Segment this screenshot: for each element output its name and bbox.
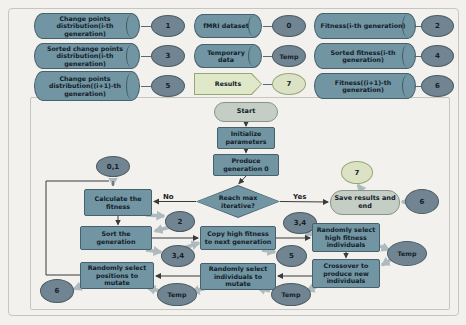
store-results: Results: [194, 73, 262, 95]
connector-line: [414, 26, 421, 27]
flow-diagram-figure: Change points distribution(i-th generati…: [0, 0, 466, 325]
tag-label: Temp: [280, 53, 299, 60]
store-change-points-i1: Change points distribution((i+1)-th gene…: [34, 71, 140, 101]
tag-ellipse-2: 2: [421, 15, 454, 37]
tag-ellipse-temp: Temp: [272, 45, 306, 67]
produce-generation-node: Produce generation 0: [213, 154, 279, 176]
store-ref-label: Temp: [398, 250, 417, 257]
store-ref-temp-left: Temp: [157, 283, 197, 306]
store-ref-5: 5: [276, 245, 307, 267]
tag-label: 5: [166, 82, 171, 90]
store-label: Temporary data: [199, 49, 253, 63]
connector-line: [141, 56, 151, 57]
store-label: Fitness((i+1)-th generation): [319, 79, 407, 93]
store-ref-label: 0,1: [107, 163, 119, 171]
tag-ellipse-7: 7: [272, 73, 306, 95]
store-label: Change points distribution((i+1)-th gene…: [39, 75, 131, 97]
process-label: Initialize parameters: [220, 130, 272, 145]
reach-max-iterative-decision: Reach max iterative?: [196, 185, 280, 218]
store-ref-7: 7: [341, 161, 373, 184]
connector-line: [263, 84, 272, 85]
connector-line: [141, 86, 151, 87]
store-label: Results: [194, 73, 262, 95]
store-label: Sorted change points distribution(i-th g…: [39, 45, 131, 67]
store-ref-label: 6: [420, 198, 425, 206]
process-label: Randomly select individuals to mutate: [203, 265, 273, 288]
process-label: Copy high fitness to next generation: [203, 230, 273, 245]
tag-label: 3: [166, 52, 171, 60]
tag-ellipse-1: 1: [151, 15, 185, 37]
store-label: fMRI dataset: [203, 22, 248, 29]
store-fmri-dataset: fMRI dataset: [194, 14, 262, 38]
tag-ellipse-6: 6: [421, 75, 454, 97]
process-label: Calculate the fitness: [87, 195, 149, 210]
store-ref-label: 3,4: [172, 252, 184, 260]
store-fitness-i1: Fitness((i+1)-th generation): [314, 73, 416, 99]
store-ref-label: 2: [178, 218, 183, 226]
start-label: Start: [237, 108, 256, 115]
store-fitness-i: Fitness(i-th generation): [314, 13, 416, 39]
store-ref-label: Temp: [168, 291, 187, 298]
store-label: Fitness(i-th generation): [321, 22, 406, 29]
tag-ellipse-4: 4: [421, 45, 454, 67]
select-individuals-mutate-node: Randomly select individuals to mutate: [200, 263, 276, 290]
store-temporary-data: Temporary data: [194, 44, 262, 68]
tag-ellipse-5: 5: [151, 75, 185, 97]
store-sorted-change-points-i: Sorted change points distribution(i-th g…: [34, 43, 140, 69]
store-ref-temp-right: Temp: [387, 241, 427, 266]
connector-line: [263, 56, 272, 57]
save-results-end-node: Save results and end: [330, 190, 400, 215]
process-label: Randomly select positions to mutate: [83, 264, 151, 287]
copy-high-fitness-node: Copy high fitness to next generation: [200, 226, 276, 250]
sort-generation-node: Sort the generation: [80, 226, 152, 250]
process-label: Produce generation 0: [216, 157, 276, 172]
process-label: Randomly select high fitness individuals: [315, 226, 377, 249]
connector-line: [141, 26, 151, 27]
store-ref-6-left: 6: [40, 279, 74, 303]
select-high-fitness-node: Randomly select high fitness individuals: [312, 223, 380, 252]
yes-branch-label: Yes: [293, 193, 306, 201]
store-change-points-i: Change points distribution(i-th generati…: [34, 13, 140, 39]
store-ref-label: 5: [289, 252, 294, 260]
connector-line: [414, 86, 421, 87]
store-label: Sorted fitness(i-th generation): [319, 49, 407, 63]
store-ref-temp-mid: Temp: [271, 283, 311, 306]
select-positions-mutate-node: Randomly select positions to mutate: [80, 262, 154, 289]
initialize-parameters-node: Initialize parameters: [217, 127, 275, 149]
connector-line: [414, 56, 421, 57]
store-ref-label: 6: [55, 287, 60, 295]
process-label: Sort the generation: [83, 230, 149, 245]
store-ref-label: Temp: [282, 291, 301, 298]
process-label: Crossover to produce new individuals: [315, 262, 377, 285]
calculate-fitness-node: Calculate the fitness: [84, 189, 152, 216]
store-ref-01: 0,1: [96, 156, 130, 177]
tag-label: 4: [435, 52, 440, 60]
tag-label: 0: [287, 22, 292, 30]
start-node: Start: [214, 102, 278, 122]
crossover-node: Crossover to produce new individuals: [312, 259, 380, 288]
tag-label: 7: [287, 80, 292, 88]
tag-label: 6: [435, 82, 440, 90]
store-ref-34-left: 3,4: [161, 245, 195, 267]
no-branch-label: No: [163, 193, 174, 201]
connector-line: [263, 26, 272, 27]
store-ref-label: 7: [355, 169, 360, 177]
store-sorted-fitness-i: Sorted fitness(i-th generation): [314, 43, 416, 69]
tag-label: 1: [166, 22, 171, 30]
store-ref-2: 2: [165, 211, 195, 232]
store-ref-6-right: 6: [405, 189, 439, 214]
terminal-label: Save results and end: [334, 195, 396, 210]
decision-label: Reach max iterative?: [196, 185, 280, 218]
tag-label: 2: [435, 22, 440, 30]
tag-ellipse-3: 3: [151, 45, 185, 67]
store-label: Change points distribution(i-th generati…: [39, 15, 131, 37]
tag-ellipse-0: 0: [272, 15, 306, 37]
store-ref-label: 3,4: [294, 219, 306, 227]
